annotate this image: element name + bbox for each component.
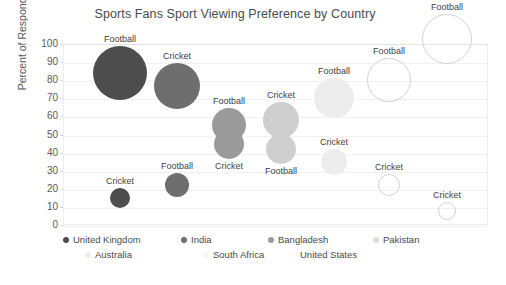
legend-item-united-kingdom[interactable]: United Kingdom [63, 234, 141, 245]
bubble-label: Football [251, 166, 311, 176]
bubble-label: Football [304, 66, 364, 76]
bubble-label: Cricket [147, 51, 207, 61]
legend-item-united-states[interactable]: United States [290, 249, 357, 260]
y-tick-label: 60 [28, 111, 58, 121]
bubble-label: Football [199, 96, 259, 106]
bubble-united-kingdom-football[interactable] [93, 46, 147, 100]
bubble-australia-cricket[interactable] [321, 149, 347, 175]
bubble-india-cricket[interactable] [154, 63, 200, 109]
legend-label: United States [300, 249, 357, 260]
y-tick-label: 10 [28, 202, 58, 212]
legend-item-bangladesh[interactable]: Bangladesh [268, 234, 328, 245]
bubble-label: Cricket [199, 161, 259, 171]
y-tick-label: 20 [28, 184, 58, 194]
bubble-label: Cricket [90, 176, 150, 186]
bubble-south-africa-football[interactable] [367, 58, 411, 102]
bubble-label: Cricket [304, 137, 364, 147]
bubble-india-football[interactable] [165, 173, 189, 197]
y-tick-label: 90 [28, 57, 58, 67]
gridline [64, 226, 487, 227]
bubble-chart: Sports Fans Sport Viewing Preference by … [0, 0, 506, 285]
y-tick-label: 40 [28, 148, 58, 158]
legend-swatch-icon [373, 237, 379, 243]
legend-swatch-icon [203, 252, 209, 258]
y-tick-label: 0 [28, 220, 58, 230]
gridline [64, 208, 487, 209]
bubble-label: Football [90, 34, 150, 44]
legend-item-india[interactable]: India [181, 234, 212, 245]
y-tick-label: 100 [28, 39, 58, 49]
bubble-label: Cricket [251, 90, 311, 100]
legend-label: Pakistan [383, 234, 419, 245]
legend-label: South Africa [213, 249, 264, 260]
y-tick-label: 70 [28, 93, 58, 103]
chart-title: Sports Fans Sport Viewing Preference by … [0, 7, 470, 21]
bubble-united-states-football[interactable] [422, 14, 472, 64]
legend-swatch-icon [63, 237, 69, 243]
y-tick-label: 50 [28, 130, 58, 140]
bubble-label: Football [147, 161, 207, 171]
bubble-label: Football [359, 46, 419, 56]
legend-swatch-icon [268, 237, 274, 243]
bubble-united-kingdom-cricket[interactable] [110, 188, 130, 208]
legend-swatch-icon [181, 237, 187, 243]
bubble-united-states-cricket[interactable] [438, 202, 456, 220]
bubble-bangladesh-cricket[interactable] [214, 129, 244, 159]
bubble-pakistan-football[interactable] [266, 134, 296, 164]
legend-label: United Kingdom [73, 234, 141, 245]
bubble-pakistan-cricket[interactable] [263, 102, 299, 138]
legend-swatch-icon [290, 252, 296, 258]
legend-item-south-africa[interactable]: South Africa [203, 249, 264, 260]
chart-legend: United KingdomIndiaBangladeshPakistanAus… [63, 234, 488, 279]
legend-label: Australia [95, 249, 132, 260]
legend-item-australia[interactable]: Australia [85, 249, 132, 260]
bubble-south-africa-cricket[interactable] [378, 174, 400, 196]
bubble-label: Cricket [359, 162, 419, 172]
legend-label: India [191, 234, 212, 245]
bubble-label: Cricket [417, 190, 477, 200]
y-axis-title: Percent of Respondents [16, 0, 28, 114]
legend-label: Bangladesh [278, 234, 328, 245]
y-tick-label: 80 [28, 75, 58, 85]
y-tick-label: 30 [28, 166, 58, 176]
legend-swatch-icon [85, 252, 91, 258]
bubble-label: Football [417, 2, 477, 12]
legend-item-pakistan[interactable]: Pakistan [373, 234, 419, 245]
